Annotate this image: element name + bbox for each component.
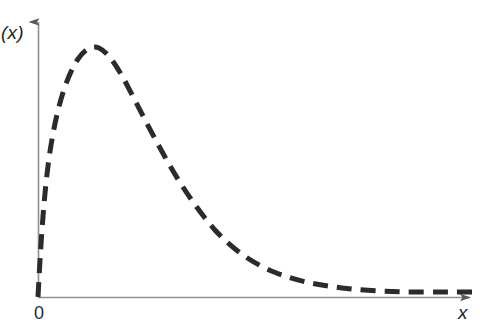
density-plot-svg [0, 0, 489, 330]
figure-canvas: (x) x 0 [0, 0, 489, 330]
origin-tick-label: 0 [34, 304, 44, 322]
y-axis-label: (x) [1, 23, 24, 42]
density-curve [38, 47, 478, 297]
x-axis-label: x [458, 303, 468, 322]
